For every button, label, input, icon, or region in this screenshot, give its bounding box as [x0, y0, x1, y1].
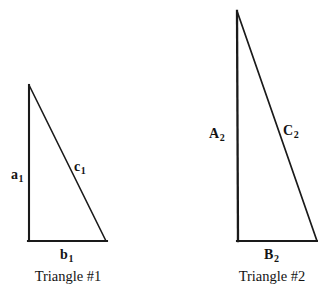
- subscript: 1: [81, 165, 86, 176]
- triangle-1-hypotenuse: [29, 85, 106, 241]
- subscript: 1: [68, 253, 73, 264]
- subscript: 1: [19, 173, 24, 184]
- triangle-1-caption: Triangle #1: [0, 269, 136, 284]
- triangle-2-caption: Triangle #2: [206, 269, 318, 284]
- triangle-2-horizontal-leg-label: B2: [264, 248, 279, 262]
- subscript: 2: [220, 132, 225, 143]
- triangles-figure: a1 c1 b1 Triangle #1 A2 C2 B2 Triangle #…: [0, 0, 318, 293]
- triangle-2-hypotenuse: [237, 11, 317, 241]
- subscript: 2: [274, 253, 279, 264]
- triangle-1-hypotenuse-label: c1: [74, 160, 85, 174]
- triangle-2-shape: [237, 11, 318, 241]
- triangle-2-vertical-leg: [237, 11, 238, 241]
- triangle-2-hypotenuse-label: C2: [283, 124, 298, 138]
- triangle-1-shape: [28, 85, 107, 241]
- subscript: 2: [294, 129, 299, 140]
- triangle-1-horizontal-leg-label: b1: [60, 248, 73, 262]
- triangle-1-vertical-leg-label: a1: [11, 168, 23, 182]
- triangle-2-vertical-leg-label: A2: [209, 127, 224, 141]
